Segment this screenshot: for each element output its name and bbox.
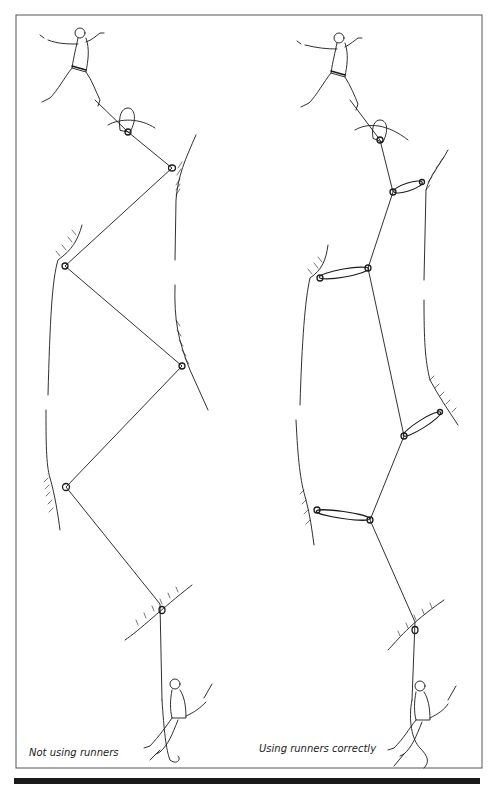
belayer-seated-figure [388,681,456,768]
caption-not-using-runners: Not using runners [29,747,119,758]
rope [350,100,415,700]
sling-icon [372,120,386,142]
climber-leading-figure [297,33,362,110]
climber-leading-figure [40,28,104,106]
figure-frame [16,15,482,768]
panel-left [40,28,212,762]
caption-using-runners-correctly: Using runners correctly [259,743,376,754]
bottom-rule-divider [14,778,480,784]
carabiner-icons [314,137,443,634]
rock-edges [44,135,208,640]
panel-right [296,33,458,768]
rock-edges [296,150,458,650]
belayer-seated-figure [144,679,212,762]
carabiner-icons [62,129,185,614]
runners-illustration [0,0,499,788]
extended-runner-icons [316,179,443,523]
